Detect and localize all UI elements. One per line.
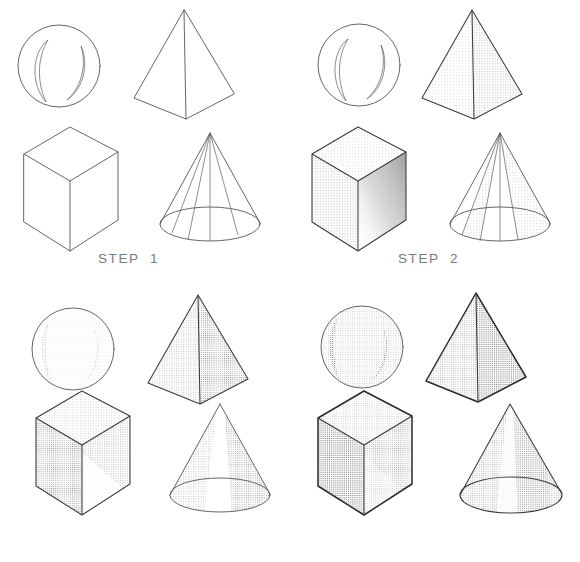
panel-step-2: STEP 2	[290, 0, 580, 281]
pyramid-step-3	[140, 291, 262, 413]
sphere-step-2	[314, 17, 410, 113]
sphere-step-1	[14, 18, 110, 114]
cone-step-4	[448, 396, 576, 530]
cube-step-3	[28, 381, 144, 527]
step-label-2: STEP 2	[398, 251, 459, 266]
pyramid-step-1	[126, 6, 244, 126]
cone-step-1	[150, 127, 272, 253]
cube-step-2	[304, 117, 416, 259]
cube-step-4	[310, 381, 428, 529]
cone-step-3	[158, 396, 284, 528]
panel-step-1: STEP 1	[0, 0, 290, 281]
cone-step-2	[440, 127, 564, 255]
step-label-1: STEP 1	[98, 251, 159, 266]
cube-step-1	[16, 117, 124, 257]
pyramid-step-4	[418, 289, 542, 413]
pyramid-step-2	[414, 6, 536, 128]
panel-step-4: STEP 4	[290, 281, 580, 562]
panel-step-3: STEP 3	[0, 281, 290, 562]
worksheet-sheet: STEP 1	[0, 0, 580, 562]
